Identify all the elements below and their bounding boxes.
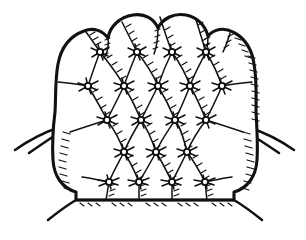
seat-base (48, 200, 262, 220)
chair-line-drawing: Tufted upholstered chair back Black and … (0, 0, 306, 240)
illustration-canvas: Tufted upholstered chair back Black and … (0, 0, 306, 240)
